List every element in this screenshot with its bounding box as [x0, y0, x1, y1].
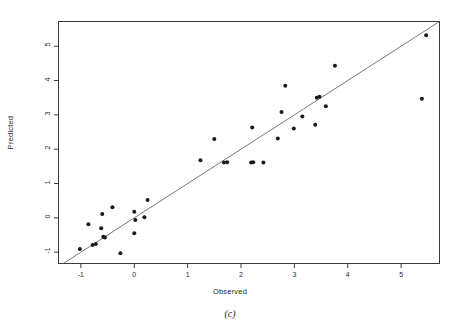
data-point [333, 64, 337, 68]
data-point [103, 235, 107, 239]
data-point [324, 104, 328, 108]
x-axis-title: Observed [0, 287, 460, 296]
y-tick-label: 4 [43, 69, 50, 89]
data-point [292, 127, 296, 131]
data-point [280, 110, 284, 114]
data-point [132, 210, 136, 214]
y-tick-label: 2 [43, 138, 50, 158]
identity-line-segment [63, 22, 439, 264]
data-point [146, 198, 150, 202]
y-tick-label: 3 [43, 103, 50, 123]
data-point [212, 137, 216, 141]
x-tick-label: 2 [231, 271, 251, 278]
data-point [261, 161, 265, 165]
y-axis-tick-marks [54, 46, 59, 252]
data-point [99, 226, 103, 230]
data-point [250, 126, 254, 130]
data-point [133, 218, 137, 222]
scatter-plot-figure: -1012345 -1012345 Observed Predicted (c) [0, 0, 460, 331]
data-point [276, 137, 280, 141]
data-point [142, 215, 146, 219]
data-point [118, 251, 122, 255]
x-tick-label: 4 [338, 271, 358, 278]
data-point [424, 33, 428, 37]
x-tick-label: 1 [178, 271, 198, 278]
x-tick-label: 3 [284, 271, 304, 278]
data-point [225, 160, 229, 164]
data-point [420, 97, 424, 101]
y-axis-title: Predicted [6, 101, 15, 165]
data-point [317, 95, 321, 99]
data-point [198, 158, 202, 162]
figure-caption: (c) [0, 308, 460, 319]
y-tick-label: 5 [43, 35, 50, 55]
x-tick-label: 0 [124, 271, 144, 278]
y-tick-label: 1 [43, 172, 50, 192]
data-point [313, 123, 317, 127]
data-point [110, 205, 114, 209]
data-point [78, 247, 82, 251]
y-tick-label: 0 [43, 206, 50, 226]
x-tick-label: 5 [391, 271, 411, 278]
data-point [86, 222, 90, 226]
data-point [251, 160, 255, 164]
data-point [300, 115, 304, 119]
identity-reference-line [63, 22, 439, 264]
y-tick-label: -1 [43, 241, 50, 261]
data-point [100, 212, 104, 216]
data-points-group [78, 33, 428, 255]
plot-canvas [0, 0, 460, 331]
x-tick-label: -1 [71, 271, 91, 278]
data-point [132, 231, 136, 235]
data-point [283, 84, 287, 88]
data-point [94, 242, 98, 246]
x-axis-tick-marks [81, 264, 401, 269]
